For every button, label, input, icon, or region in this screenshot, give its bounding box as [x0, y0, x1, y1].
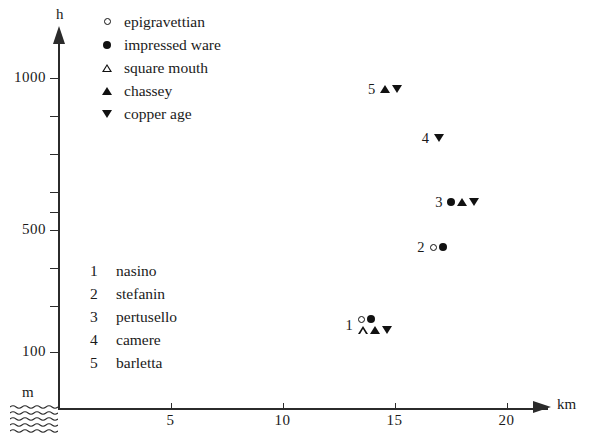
y-tick-label: 1000 — [0, 69, 46, 86]
y-tick — [50, 352, 59, 353]
y-axis-unit-label: m — [22, 384, 34, 401]
site-key-name: barletta — [116, 354, 162, 372]
site-key-row: 2stefanin — [90, 285, 177, 308]
y-tick — [50, 212, 59, 213]
y-tick — [50, 230, 59, 231]
sea-level-hatch-icon — [10, 404, 58, 438]
triangle-up-open-marker-icon — [102, 64, 112, 72]
data-point-number-label: 5 — [368, 82, 380, 97]
site-key-row: 1nasino — [90, 262, 177, 285]
data-point-nasino: 1 — [346, 314, 392, 336]
site-key-name: nasino — [116, 262, 156, 280]
legend-item-label: impressed ware — [118, 36, 221, 54]
site-key-number: 1 — [90, 262, 116, 280]
scatter-plot: h m km 1000500100 5101520 epigravettiani… — [0, 0, 592, 448]
y-tick — [50, 192, 59, 193]
circle-open-marker-icon — [104, 18, 111, 25]
legend-marker — [96, 41, 118, 49]
x-tick — [395, 403, 396, 409]
data-point-markers — [430, 242, 447, 253]
x-tick-label: 5 — [151, 412, 191, 429]
circle-filled-marker-icon — [439, 243, 447, 251]
x-axis-label: km — [557, 396, 576, 413]
y-tick-label: 100 — [0, 343, 46, 360]
triangle-down-filled-marker-icon — [392, 85, 402, 93]
data-point-camere: 4 — [422, 131, 444, 146]
circle-filled-marker-icon — [103, 41, 111, 49]
legend-item-label: copper age — [118, 105, 192, 123]
data-point-pertusello: 3 — [435, 195, 479, 210]
site-key-number: 5 — [90, 354, 116, 372]
x-axis-line — [58, 408, 548, 410]
site-key-name: pertusello — [116, 308, 177, 326]
legend-item-label: epigravettian — [118, 13, 205, 31]
triangle-down-filled-marker-icon — [434, 134, 444, 142]
data-point-marker-row — [358, 314, 392, 325]
legend-marker — [96, 110, 118, 118]
legend-item-label: square mouth — [118, 59, 208, 77]
y-tick — [50, 268, 59, 269]
legend-item-label: chassey — [118, 82, 172, 100]
x-tick-label: 10 — [263, 412, 303, 429]
data-point-marker-row — [430, 242, 447, 253]
x-tick — [507, 403, 508, 409]
site-key-name: stefanin — [116, 285, 165, 303]
y-tick — [50, 306, 59, 307]
circle-filled-marker-icon — [367, 315, 375, 323]
triangle-up-filled-marker-icon — [102, 87, 112, 95]
x-tick — [171, 403, 172, 409]
site-key-number: 3 — [90, 308, 116, 326]
triangle-up-filled-marker-icon — [370, 326, 380, 334]
triangle-down-filled-marker-icon — [382, 326, 392, 334]
legend-item: epigravettian — [96, 10, 221, 33]
legend: epigravettianimpressed waresquare mouthc… — [96, 10, 221, 125]
triangle-down-filled-marker-icon — [469, 198, 479, 206]
data-point-number-label: 3 — [435, 195, 447, 210]
triangle-up-filled-marker-icon — [380, 85, 390, 93]
circle-open-marker-icon — [358, 316, 365, 323]
data-point-markers — [380, 84, 402, 95]
legend-marker — [96, 18, 118, 25]
data-point-markers — [358, 314, 392, 336]
site-key-row: 5barletta — [90, 354, 177, 377]
data-point-marker-row — [380, 84, 402, 95]
legend-marker — [96, 87, 118, 95]
data-point-marker-row — [358, 325, 392, 336]
data-point-markers — [434, 133, 444, 144]
y-tick — [50, 78, 59, 79]
x-axis-arrow-icon — [533, 401, 551, 413]
x-tick-label: 15 — [375, 412, 415, 429]
site-name-key: 1nasino2stefanin3pertusello4camere5barle… — [90, 262, 177, 377]
y-axis-line — [58, 40, 60, 410]
data-point-marker-row — [447, 196, 479, 207]
data-point-number-label: 4 — [422, 131, 434, 146]
y-tick — [50, 154, 59, 155]
y-axis-label: h — [56, 6, 64, 23]
data-point-stefanin: 2 — [417, 240, 446, 255]
site-key-row: 3pertusello — [90, 308, 177, 331]
circle-open-marker-icon — [430, 244, 437, 251]
data-point-marker-row — [434, 133, 444, 144]
data-point-number-label: 1 — [346, 318, 358, 333]
circle-filled-marker-icon — [447, 198, 455, 206]
site-key-name: camere — [116, 331, 161, 349]
site-key-row: 4camere — [90, 331, 177, 354]
data-point-number-label: 2 — [417, 240, 429, 255]
x-tick-label: 20 — [487, 412, 527, 429]
y-axis-arrow-icon — [53, 26, 65, 44]
site-key-number: 2 — [90, 285, 116, 303]
legend-item: chassey — [96, 79, 221, 102]
site-key-number: 4 — [90, 331, 116, 349]
legend-item: square mouth — [96, 56, 221, 79]
triangle-up-open-marker-icon — [358, 326, 368, 334]
triangle-down-filled-marker-icon — [102, 110, 112, 118]
y-tick — [50, 116, 59, 117]
x-tick — [283, 403, 284, 409]
legend-item: copper age — [96, 102, 221, 125]
triangle-up-filled-marker-icon — [457, 198, 467, 206]
data-point-markers — [447, 196, 479, 207]
data-point-barletta: 5 — [368, 82, 402, 97]
legend-item: impressed ware — [96, 33, 221, 56]
legend-marker — [96, 64, 118, 72]
y-tick-label: 500 — [0, 221, 46, 238]
